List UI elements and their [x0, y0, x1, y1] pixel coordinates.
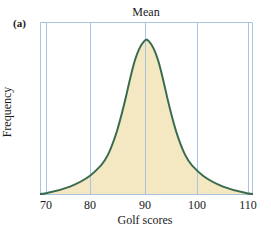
x-tick-label-70: 70 [26, 198, 66, 213]
x-tick-label-100: 100 [177, 198, 217, 213]
distribution-plot-svg [40, 22, 253, 195]
distribution-area-fill [40, 39, 253, 194]
x-tick-label-90: 90 [125, 198, 165, 213]
x-tick-label-80: 80 [70, 198, 110, 213]
figure-container: (a) Mean Frequency [0, 0, 271, 232]
panel-letter: (a) [13, 17, 26, 29]
x-tick-label-110: 110 [228, 198, 268, 213]
plot-area [40, 22, 253, 195]
y-axis-label: Frequency [0, 80, 15, 144]
chart-title: Mean [105, 5, 187, 20]
x-axis-label: Golf scores [95, 213, 195, 228]
